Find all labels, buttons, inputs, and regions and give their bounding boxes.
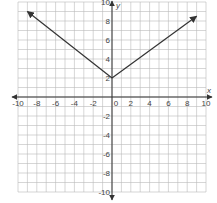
y-tick-label: -10 — [98, 188, 110, 197]
coordinate-plane-chart: -10-8-6-4-20246810-10-8-6-4-2246810xy — [0, 0, 217, 203]
x-tick-label: -4 — [71, 99, 79, 108]
y-tick-label: 4 — [106, 55, 111, 64]
x-tick-label: -6 — [52, 99, 60, 108]
x-axis-label: x — [206, 86, 212, 95]
y-tick-label: 6 — [106, 36, 111, 45]
x-tick-label: 6 — [166, 99, 171, 108]
left-ray — [27, 12, 112, 79]
y-tick-label: 10 — [101, 0, 110, 7]
x-tick-label: 8 — [185, 99, 190, 108]
y-tick-label: -2 — [103, 112, 111, 121]
y-tick-label: -8 — [103, 169, 111, 178]
x-tick-label: 0 — [114, 99, 119, 108]
y-tick-label: -6 — [103, 150, 111, 159]
x-tick-label: -8 — [33, 99, 41, 108]
x-tick-label: -2 — [90, 99, 98, 108]
x-tick-label: 2 — [129, 99, 134, 108]
y-tick-label: -4 — [103, 131, 111, 140]
x-tick-label: 4 — [147, 99, 152, 108]
x-tick-label: -10 — [12, 99, 24, 108]
y-tick-label: 8 — [106, 17, 111, 26]
y-axis-label: y — [115, 1, 121, 10]
x-tick-label: 10 — [202, 99, 211, 108]
